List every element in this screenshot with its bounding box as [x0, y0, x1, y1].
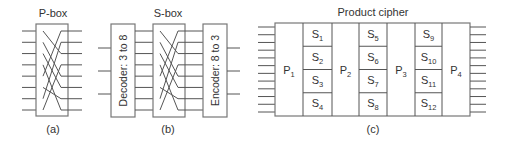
cipher-diagram: P-box (a) S-box Decoder: 3 to 8 Encoder:…	[0, 0, 505, 144]
product-input-lines	[258, 27, 275, 112]
pbox-title: P-box	[39, 7, 68, 19]
sbox-output-lines	[227, 48, 240, 94]
sbox-title: S-box	[154, 7, 183, 19]
product-output-lines	[470, 27, 486, 112]
sbox-caption: (b)	[161, 123, 174, 135]
encoder-label: Encoder: 8 to 3	[209, 35, 221, 106]
pbox-caption: (a)	[46, 123, 59, 135]
pbox-panel: P-box (a)	[22, 7, 82, 135]
sbox-panel: S-box Decoder: 3 to 8 Encoder: 8 to 3 (b…	[98, 7, 240, 135]
product-cipher-panel: Product cipher P1P2P3P4S1S2S3S4S5S6S7S8S…	[258, 6, 486, 135]
product-title: Product cipher	[338, 6, 409, 18]
sbox-input-lines	[98, 48, 111, 94]
decoder-label: Decoder: 3 to 8	[117, 34, 129, 106]
product-caption: (c)	[367, 123, 380, 135]
